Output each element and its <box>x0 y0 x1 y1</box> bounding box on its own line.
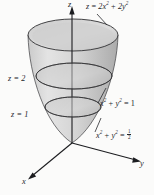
figure-canvas <box>0 0 154 195</box>
level-z1-label: z = 1 <box>11 111 28 119</box>
cross-section-z2 <box>36 63 112 89</box>
circle-bottom-equation-label: x2 + y2 = 12 <box>96 129 131 140</box>
cross-section-z1 <box>45 97 101 117</box>
x-axis-label: x <box>22 178 26 186</box>
y-axis-label: y <box>140 160 144 168</box>
y-axis <box>72 143 141 163</box>
x-axis <box>28 143 72 180</box>
one-half-fraction: 12 <box>127 129 131 140</box>
paraboloid-figure: z = 2x2 + 2y2 x2 + y2 = 1 x2 + y2 = 12 z… <box>0 0 154 195</box>
level-z2-label: z = 2 <box>8 75 25 83</box>
circle-top-equation-label: x2 + y2 = 1 <box>100 100 135 108</box>
surface-equation-label: z = 2x2 + 2y2 <box>86 3 128 11</box>
z-axis-label: z <box>68 1 71 9</box>
